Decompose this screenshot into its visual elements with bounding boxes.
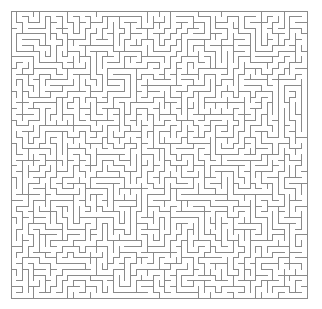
- maze-app: [0, 0, 322, 309]
- maze-svg: [0, 0, 322, 309]
- maze-canvas: [0, 0, 322, 309]
